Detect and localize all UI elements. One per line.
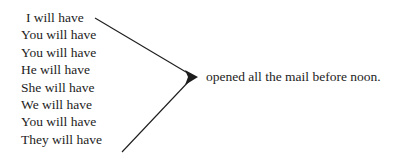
subject-line-2: You will have: [21, 26, 171, 43]
subject-line-7: You will have: [21, 113, 171, 130]
subject-line-4: He will have: [21, 61, 171, 78]
subject-list: I will have You will have You will have …: [21, 9, 171, 148]
diagram-canvas: I will have You will have You will have …: [0, 0, 420, 162]
subject-line-5: She will have: [21, 79, 171, 96]
arrowhead-right-icon: [185, 70, 198, 85]
subject-line-8: They will have: [21, 131, 171, 148]
subject-line-1: I will have: [21, 9, 171, 26]
subject-line-6: We will have: [21, 96, 171, 113]
predicate-text: opened all the mail before noon.: [206, 69, 381, 85]
subject-line-3: You will have: [21, 44, 171, 61]
